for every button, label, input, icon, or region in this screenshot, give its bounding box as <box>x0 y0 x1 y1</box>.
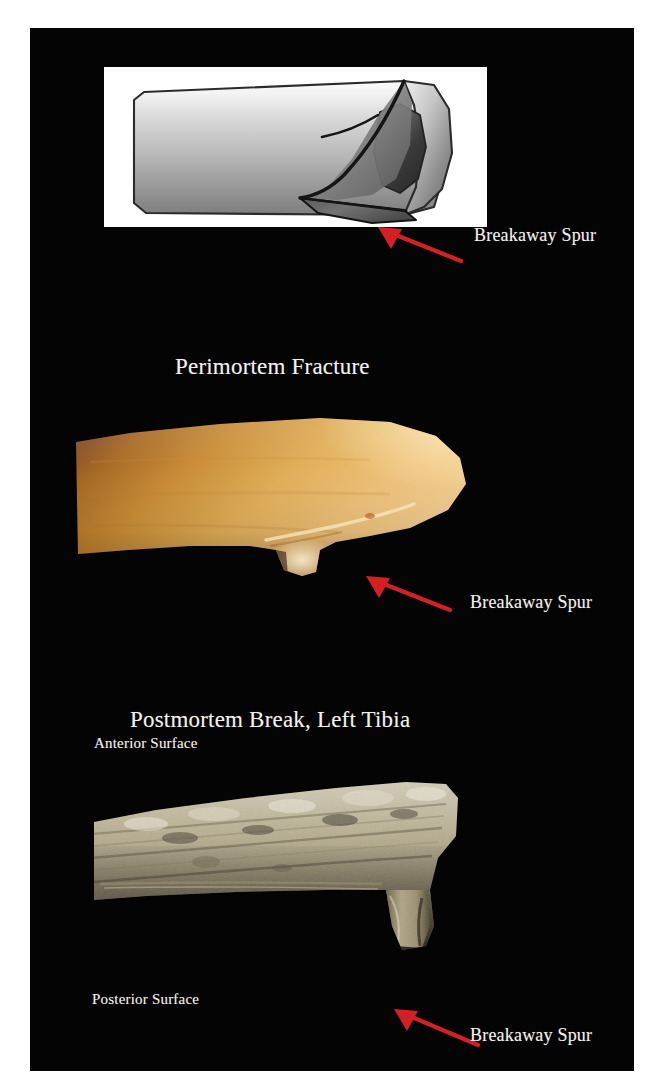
bone-fragment <box>70 400 520 583</box>
figure-root: Breakaway Spur Perimortem Fracture <box>0 0 665 1089</box>
perimortem-bone-image <box>70 400 520 583</box>
arrow-up-left-icon <box>366 576 450 610</box>
photo-postmortem-tibia <box>86 750 526 990</box>
bone-shaft-schematic <box>104 67 487 227</box>
arrow-to-perimortem-spur <box>350 568 460 616</box>
bone-shaft-drawing <box>104 67 487 227</box>
label-posterior-surface: Posterior Surface <box>92 991 199 1008</box>
arrow-to-schematic-spur <box>360 218 470 266</box>
callout-postmortem-breakaway-spur: Breakaway Spur <box>470 1025 592 1046</box>
callout-perimortem-breakaway-spur: Breakaway Spur <box>470 592 592 613</box>
tibia-fragment <box>86 750 526 990</box>
postmortem-tibia-image <box>86 750 526 990</box>
black-plate: Breakaway Spur Perimortem Fracture <box>30 28 634 1071</box>
callout-schematic-breakaway-spur: Breakaway Spur <box>474 225 596 246</box>
arrow-up-left-icon <box>378 227 461 261</box>
photo-perimortem-fracture <box>70 400 520 583</box>
panel-title-postmortem: Postmortem Break, Left Tibia <box>130 707 410 733</box>
arrow-up-left-icon <box>394 1009 478 1045</box>
panel-title-perimortem: Perimortem Fracture <box>175 354 370 380</box>
